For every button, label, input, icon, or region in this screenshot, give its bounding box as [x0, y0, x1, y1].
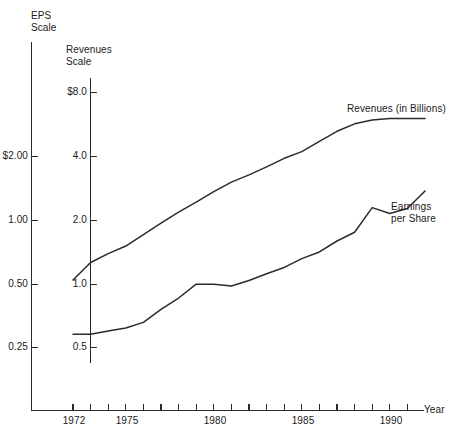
- revenue-tick-label-0.5: 0.5: [52, 341, 87, 353]
- revenue-tick-label-4.0: 4.0: [52, 150, 87, 162]
- eps-axis-ticks: [32, 157, 39, 348]
- series-label-eps-line1: Earnings: [391, 201, 431, 213]
- series-label-eps-line2: per Share: [391, 213, 436, 225]
- series-label-revenues: Revenues (in Billions): [347, 103, 446, 115]
- year-tick-label-1972: 1972: [59, 415, 89, 427]
- eps-scale-title-line2: Scale: [31, 22, 57, 34]
- year-tick-label-1980: 1980: [200, 415, 230, 427]
- revenue-scale-title-line1: Revenues: [66, 44, 112, 56]
- year-tick-label-1990: 1990: [376, 415, 406, 427]
- eps-tick-label-0.25: 0.25: [0, 341, 28, 353]
- year-tick-label-1985: 1985: [288, 415, 318, 427]
- revenue-tick-label-8.0: $8.0: [52, 86, 87, 98]
- series-line-eps: [73, 191, 425, 334]
- chart-figure: EPS Scale Revenues Scale $2.00 1.00 0.50…: [0, 0, 450, 433]
- year-tick-label-1975: 1975: [112, 415, 142, 427]
- eps-tick-label-0.50: 0.50: [0, 278, 28, 290]
- x-axis-ticks: [73, 404, 407, 411]
- eps-scale-title-line1: EPS: [31, 10, 51, 22]
- revenue-axis-ticks: [91, 93, 98, 348]
- revenue-scale-title-line2: Scale: [66, 56, 92, 68]
- eps-tick-label-1.00: 1.00: [0, 214, 28, 226]
- x-axis-title: Year: [424, 404, 445, 416]
- series-line-revenues: [73, 118, 425, 280]
- revenue-tick-label-2.0: 2.0: [52, 214, 87, 226]
- eps-tick-label-2.00: $2.00: [0, 150, 28, 162]
- revenue-tick-label-1.0: 1.0: [52, 278, 87, 290]
